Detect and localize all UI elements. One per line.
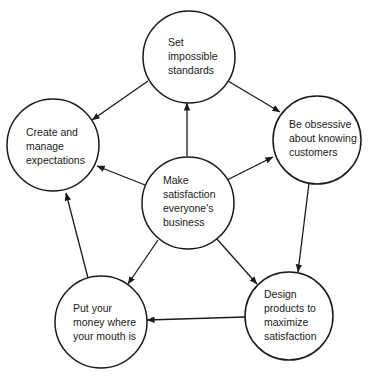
arrow-set-standards-to-obsessive-customers xyxy=(228,81,280,112)
arrow-set-standards-to-create-expectations xyxy=(92,81,148,120)
arrow-make-satisfaction-to-create-expectations xyxy=(97,166,145,185)
node-label-put-money: Put your money where your mouth is xyxy=(73,301,136,343)
arrow-make-satisfaction-to-put-money xyxy=(128,240,158,284)
arrow-make-satisfaction-to-design-products xyxy=(216,238,257,284)
arrow-put-money-to-create-expectations xyxy=(66,193,88,278)
node-label-set-standards: Set impossible standards xyxy=(168,35,218,77)
arrow-obsessive-customers-to-design-products xyxy=(298,183,309,272)
node-label-obsessive-customers: Be obsessive about knowing customers xyxy=(289,117,357,159)
node-label-make-satisfaction: Make satisfaction everyone's business xyxy=(163,173,216,229)
arrow-make-satisfaction-to-obsessive-customers xyxy=(227,157,273,180)
arrow-design-products-to-put-money xyxy=(147,317,245,320)
node-label-create-expectations: Create and manage expectations xyxy=(26,125,85,167)
node-label-design-products: Design products to maximize satisfaction xyxy=(264,287,317,343)
